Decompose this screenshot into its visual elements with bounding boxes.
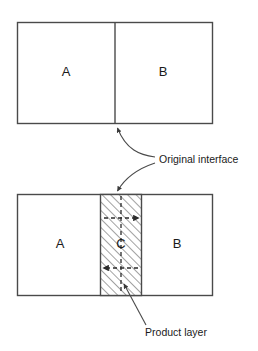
annotation-product-layer: Product layer — [145, 326, 207, 338]
region-label-a-bottom: A — [56, 236, 65, 251]
annotation-original-interface: Original interface — [159, 153, 239, 165]
region-label-b-bottom: B — [173, 236, 182, 251]
panel-reacted-couple: A C B — [18, 195, 213, 296]
panel-initial-couple: A B — [18, 23, 213, 124]
diffusion-couple-figure: A B Original interface A C B — [0, 0, 258, 351]
region-label-b-top: B — [159, 64, 168, 79]
original-interface-leader-group: Original interface — [118, 128, 239, 191]
region-label-c-layer: C — [116, 236, 125, 251]
original-interface-leader-lower — [118, 163, 156, 191]
original-interface-leader-upper — [118, 128, 156, 157]
region-label-a-top: A — [62, 64, 71, 79]
diagram-canvas: A B Original interface A C B — [0, 0, 258, 351]
